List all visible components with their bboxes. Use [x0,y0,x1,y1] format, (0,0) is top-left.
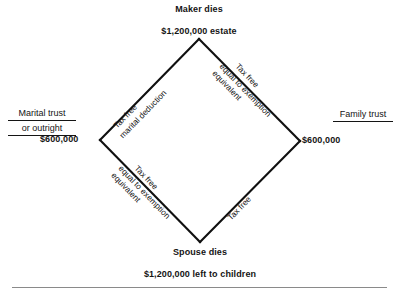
diagram-canvas: Maker dies $1,200,000 estate Marital tru… [0,0,399,293]
value-left-600000: $600,000 [40,134,78,145]
bottom-divider [12,287,387,288]
marital-trust-line-1: Marital trust [8,107,76,121]
edge-lower-right [200,141,300,242]
label-family-trust: Family trust [333,108,393,122]
apex-estate-value: $1,200,000 estate [161,26,236,37]
label-spouse-dies: Spouse dies [173,247,227,258]
value-right-600000: $600,000 [302,135,340,146]
value-left-to-children: $1,200,000 left to children [144,269,256,280]
family-trust-line-1: Family trust [333,108,393,122]
label-marital-trust: Marital trust or outright [8,107,76,136]
title-maker-dies: Maker dies [175,4,223,15]
